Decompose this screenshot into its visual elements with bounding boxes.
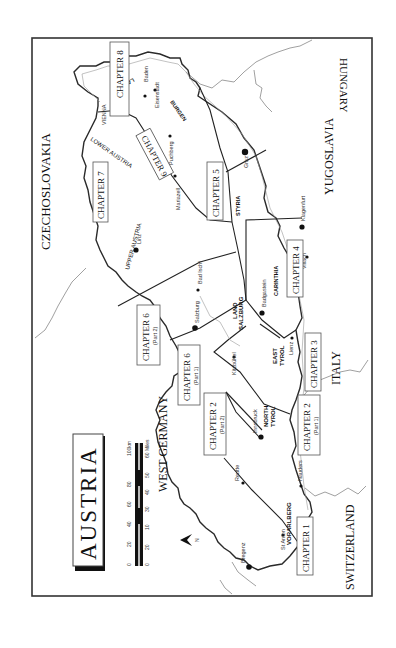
- vorarlberg-label: VORARLBERG: [286, 502, 292, 545]
- chapter-7-label: CHAPTER 7: [96, 171, 106, 219]
- scale-km-80: 80: [126, 481, 132, 487]
- chapter-6-part-2-box[interactable]: CHAPTER 6 (Part 2): [137, 305, 160, 365]
- mariazell-label: Mariazell: [175, 188, 181, 210]
- innsbruck-label: Innsbruck: [252, 409, 258, 433]
- salzburg-label: Salzburg: [194, 301, 200, 323]
- reutte-dot: [241, 481, 244, 484]
- scale-bar: 0 20 40 60 80 100km 0 20 10 30 40 50 60 …: [126, 439, 150, 566]
- linz-label: Linz: [136, 234, 142, 244]
- chapter-2-part-2-sub: (Part 2): [219, 415, 225, 434]
- chapter-5-label: CHAPTER 5: [211, 169, 221, 217]
- map-title: AUSTRIA: [73, 434, 105, 571]
- scale-mi-40: 40: [144, 489, 150, 495]
- salzburg-dot: [192, 325, 198, 331]
- chapter-4-box[interactable]: CHAPTER 4: [287, 240, 303, 297]
- chapter-8-label: CHAPTER 8: [115, 50, 125, 98]
- chapter-3-label: CHAPTER 3: [309, 340, 319, 388]
- chapter-labels: CHAPTER 8 CHAPTER 9 CHAPTER 7 CHAPTER 5 …: [93, 42, 321, 575]
- north-tyrol-label-2: TYROL: [270, 406, 276, 427]
- scale-km-60: 60: [126, 501, 132, 507]
- baden-dot: [143, 94, 146, 97]
- region-boundaries: [98, 88, 302, 548]
- nauders-dot: [299, 484, 302, 487]
- czechoslovakia-label: CZECHOSLOVAKIA: [38, 133, 53, 250]
- chapter-2-part-1-box[interactable]: CHAPTER 2 (Part 1): [298, 395, 320, 455]
- st-anton-label: St Anton: [280, 529, 286, 550]
- scale-mi-50: 50: [144, 472, 150, 478]
- yugoslavia-label: YUGOSLAVIA: [322, 118, 336, 195]
- puchberg-dot: [168, 134, 171, 137]
- austria-border: [74, 52, 312, 570]
- chapter-7-box[interactable]: CHAPTER 7: [93, 162, 108, 222]
- upper-austria-label: UPPER AUSTRIA: [124, 222, 142, 270]
- scale-mi-0: 0: [144, 563, 150, 566]
- west-germany-label: WEST GERMANY: [156, 396, 170, 492]
- innsbruck-dot: [258, 434, 263, 439]
- chapter-2-part-2-box[interactable]: CHAPTER 2 (Part 2): [204, 393, 226, 455]
- chapter-6-part-1-sub: (Part 1): [193, 366, 199, 385]
- chapter-2-part-1-sub: (Part 1): [313, 416, 319, 435]
- chapter-6-part-2-label: CHAPTER 6: [141, 313, 151, 361]
- carinthia-label: CARINTHIA: [273, 266, 279, 296]
- chapter-6-part-1-box[interactable]: CHAPTER 6 (Part 1): [178, 345, 200, 405]
- scale-mi-60: 60 Miles: [144, 439, 150, 458]
- chapter-4-label: CHAPTER 4: [291, 246, 301, 294]
- scale-mi-10: 10: [144, 524, 150, 530]
- north-arrow: N: [180, 534, 200, 546]
- badgastein-label: Badgastein: [261, 279, 267, 307]
- baden-label: Baden: [143, 66, 149, 82]
- graz-label: Graz: [243, 156, 249, 168]
- puchberg-label: Puchberg: [168, 141, 174, 165]
- scale-km-20: 20: [126, 541, 132, 547]
- italy-label: ITALY: [329, 351, 343, 385]
- north-label: N: [194, 538, 200, 542]
- scale-km-40: 40: [126, 521, 132, 527]
- klagenfurt-label: Klagenfurt: [300, 195, 306, 221]
- klagenfurt-dot: [299, 224, 304, 229]
- north-tyrol-label-1: NORTH: [263, 406, 269, 427]
- austria-map: CZECHOSLOVAKIA HUNGARY YUGOSLAVIA ITALY …: [0, 0, 396, 648]
- mariazell-dot: [173, 174, 176, 177]
- nauders-label: Nauders: [297, 460, 303, 481]
- bregenz-dot: [246, 564, 252, 570]
- lienz-dot: [290, 336, 293, 339]
- bad-ischl-dot: [196, 288, 199, 291]
- title-austria: AUSTRIA: [76, 446, 101, 560]
- switzerland-label: SWITZERLAND: [343, 504, 357, 590]
- bregenz-label: Bregenz: [240, 542, 246, 563]
- reutte-label: Reutte: [234, 465, 240, 481]
- chapter-2-part-2-label: CHAPTER 2: [208, 402, 218, 450]
- land-salzburg-label-2: SALZBURG: [238, 296, 244, 330]
- burgenland-label-1: BURGEN: [169, 99, 188, 122]
- chapter-5-box[interactable]: CHAPTER 5: [207, 162, 223, 220]
- north-arrow-icon: [180, 534, 192, 546]
- bad-ischl-label: Bad Ischl: [197, 261, 203, 284]
- lienz-label: Lienz: [288, 342, 294, 355]
- scale-mi-30: 30: [144, 506, 150, 512]
- scale-mi-20: 20: [144, 544, 150, 550]
- graz-dot: [242, 149, 248, 155]
- vienna-label: VIENNA: [101, 104, 107, 125]
- east-tyrol-label-1: EAST: [272, 348, 278, 364]
- chapter-1-label: CHAPTER 1: [301, 524, 311, 572]
- chapter-6-part-1-label: CHAPTER 6: [182, 353, 192, 401]
- styria-label: STYRIA: [235, 196, 241, 216]
- east-tyrol-label-2: TYROL: [279, 345, 285, 366]
- chapter-1-box[interactable]: CHAPTER 1: [297, 517, 313, 575]
- eisenstadt-label: Eisenstadt: [154, 82, 160, 108]
- kitzbuhel-label: Kitzbühel: [231, 352, 237, 375]
- chapter-2-part-1-label: CHAPTER 2: [302, 403, 312, 451]
- scale-km-0: 0: [126, 563, 132, 566]
- chapter-6-part-2-sub: (Part 2): [152, 326, 158, 345]
- chapter-8-box[interactable]: CHAPTER 8: [110, 42, 129, 116]
- chapter-3-box[interactable]: CHAPTER 3: [305, 333, 321, 391]
- city-labels: VIENNA Baden Eisenstadt Puchberg Mariaze…: [101, 66, 307, 563]
- hungary-label: HUNGARY: [338, 58, 350, 112]
- scale-km-100: 100km: [126, 441, 132, 456]
- badgastein-dot: [259, 310, 264, 315]
